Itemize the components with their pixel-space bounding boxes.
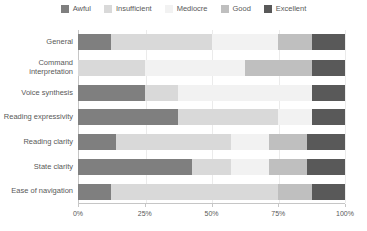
category-label: Voice synthesis [0,89,78,98]
bar-segment-awful [78,34,111,50]
x-axis-tick [145,204,146,207]
bar-segment-mediocre [145,60,245,76]
bar-row: General [0,34,345,50]
bar-row: Reading clarity [0,134,345,150]
bar-segment-awful [78,109,178,125]
stacked-bar [78,109,345,125]
stacked-bar [78,159,345,175]
bar-segment-good [278,184,311,200]
x-axis-tick [278,204,279,207]
bar-segment-excellent [312,34,345,50]
bar-segment-insufficient [192,159,230,175]
legend-label-mediocre: Mediocre [177,4,208,14]
legend-swatch-good [221,5,229,13]
bar-segment-awful [78,85,145,101]
bar-segment-excellent [312,85,345,101]
bar-segment-insufficient [111,34,211,50]
legend-item-good: Good [221,4,251,14]
bar-segment-excellent [307,159,345,175]
bar-segment-good [269,159,307,175]
bar-segment-good [269,134,307,150]
category-label: Ease of navigation [0,187,78,196]
stacked-bar [78,134,345,150]
bar-row: Ease of navigation [0,184,345,200]
bar-segment-excellent [312,109,345,125]
legend-label-excellent: Excellent [276,4,306,14]
legend-swatch-mediocre [165,5,173,13]
bar-segment-insufficient [178,109,278,125]
x-axis-tick [78,204,79,207]
legend-item-mediocre: Mediocre [165,4,208,14]
bar-row: Voice synthesis [0,85,345,101]
category-label: General [0,38,78,47]
bar-segment-mediocre [231,159,269,175]
category-label: State clarity [0,163,78,172]
x-axis-tick-label: 25% [138,210,152,217]
legend-swatch-insufficient [104,5,112,13]
x-axis-tick [345,204,346,207]
bar-segment-excellent [312,60,345,76]
bar-row: Reading expressivity [0,109,345,125]
stacked-bar [78,184,345,200]
bar-row: Command interpretation [0,59,345,76]
legend-swatch-excellent [264,5,272,13]
gridline [345,30,346,203]
bar-segment-mediocre [278,109,311,125]
bar-row: State clarity [0,159,345,175]
bar-segment-insufficient [78,60,145,76]
bar-segment-awful [78,159,192,175]
bar-segment-excellent [312,184,345,200]
stacked-bar [78,34,345,50]
x-axis-tick [212,204,213,207]
bar-segment-insufficient [116,134,230,150]
bar-segment-mediocre [212,34,279,50]
bar-segment-insufficient [145,85,178,101]
bar-segment-good [278,34,311,50]
stacked-bar [78,60,345,76]
x-axis-tick-label: 50% [204,210,218,217]
legend-item-insufficient: Insufficient [104,4,152,14]
category-label: Reading clarity [0,138,78,147]
category-label: Command interpretation [0,59,78,76]
bar-rows: GeneralCommand interpretationVoice synth… [0,30,345,204]
x-axis-tick-label: 0% [73,210,83,217]
legend-label-insufficient: Insufficient [116,4,152,14]
x-axis-tick-label: 100% [336,210,354,217]
bar-segment-awful [78,134,116,150]
legend-label-good: Good [233,4,251,14]
bar-segment-excellent [307,134,345,150]
x-axis-tick-label: 75% [271,210,285,217]
plot-area: GeneralCommand interpretationVoice synth… [0,28,345,204]
chart-legend: Awful Insufficient Mediocre Good Excelle… [0,4,367,14]
bar-segment-mediocre [178,85,312,101]
legend-item-awful: Awful [61,4,91,14]
survey-stacked-bar-chart: Awful Insufficient Mediocre Good Excelle… [0,0,367,231]
x-axis: 0%25%50%75%100% [78,206,345,226]
legend-swatch-awful [61,5,69,13]
bar-segment-awful [78,184,111,200]
category-label: Reading expressivity [0,113,78,122]
stacked-bar [78,85,345,101]
bar-segment-mediocre [231,134,269,150]
bar-segment-good [245,60,312,76]
legend-label-awful: Awful [73,4,91,14]
legend-item-excellent: Excellent [264,4,306,14]
bar-segment-insufficient [111,184,278,200]
